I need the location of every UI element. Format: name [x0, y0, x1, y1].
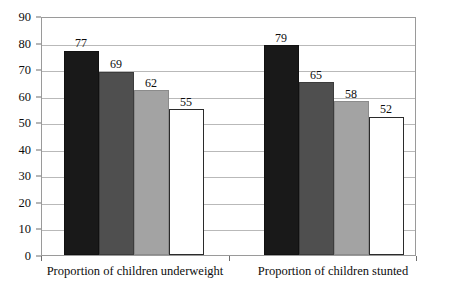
bar-group-1-series-1: [299, 82, 334, 255]
y-axis: 90 80 70 60 50 40 30 20 10 0: [0, 0, 41, 295]
bar-group-0-series-1: [99, 72, 134, 255]
bar-group-0-series-0: [64, 51, 99, 255]
x-tick-mark-end: [416, 256, 417, 261]
bar-value-group-0-series-0: 77: [75, 37, 87, 49]
bar-value-group-0-series-1: 69: [110, 58, 122, 70]
category-label-stunted: Proportion of children stunted: [258, 265, 408, 278]
bar-value-group-0-series-3: 55: [180, 96, 192, 108]
y-tick-label-60: 60: [19, 90, 32, 103]
x-tick-mark-start: [41, 256, 42, 261]
bar-value-group-1-series-0: 79: [275, 32, 287, 44]
bar-group-0-series-3: [169, 109, 204, 255]
y-tick-label-10: 10: [19, 223, 32, 236]
bar-value-group-1-series-1: 65: [310, 69, 322, 81]
y-tick-label-40: 40: [19, 144, 32, 157]
y-tick-label-20: 20: [19, 197, 32, 210]
plot-area: [41, 17, 416, 256]
y-tick-label-80: 80: [19, 37, 32, 50]
bar-value-group-1-series-3: 52: [380, 103, 392, 115]
bar-group-0-series-2: [134, 90, 169, 255]
bar-group-1-series-2: [334, 101, 369, 255]
bar-value-group-1-series-2: 58: [345, 88, 357, 100]
bar-chart: 90 80 70 60 50 40 30 20 10 0: [0, 0, 454, 295]
x-tick-mark-middle: [229, 256, 230, 261]
y-tick-label-30: 30: [19, 170, 32, 183]
bar-group-1-series-3: [369, 117, 404, 255]
y-tick-label-0: 0: [25, 250, 31, 263]
bar-value-group-0-series-2: 62: [145, 77, 157, 89]
category-label-underweight: Proportion of children underweight: [47, 265, 224, 278]
bar-group-1-series-0: [264, 45, 299, 255]
gridline-80: [42, 45, 415, 46]
y-tick-label-50: 50: [19, 117, 32, 130]
y-tick-label-90: 90: [19, 11, 32, 24]
y-tick-label-70: 70: [19, 64, 32, 77]
